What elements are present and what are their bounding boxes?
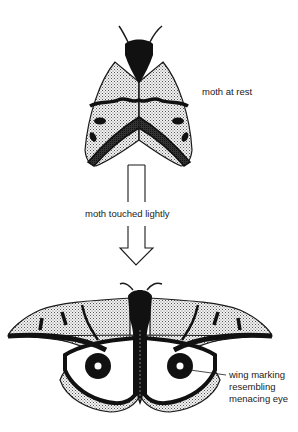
right-forewing [139,62,192,166]
label-eyespot-line3: menacing eye [229,393,298,405]
moth-at-rest [85,26,192,166]
arrow-down-icon [120,226,153,265]
antenna-right-icon [150,26,162,42]
left-forewing [85,62,139,166]
label-moth-touched: moth touched lightly [85,208,170,220]
antenna-left-icon [119,26,128,42]
arrow-shaft-upper [128,165,145,202]
label-eyespot-line1: wing marking [229,369,298,381]
label-eyespot: wing marking resembling menacing eye [229,369,298,405]
label-moth-at-rest: moth at rest [202,86,252,98]
label-eyespot-line2: resembling [229,381,298,393]
